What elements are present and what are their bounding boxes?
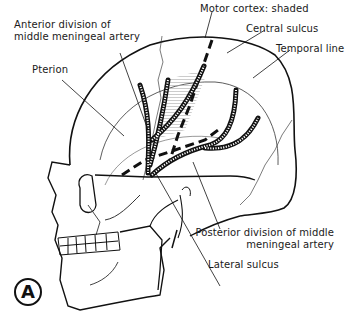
label-motor-cortex: Motor cortex: shaded bbox=[200, 3, 309, 15]
label-posterior-division-2: meningeal artery bbox=[246, 239, 334, 251]
face-outline bbox=[48, 162, 170, 310]
zygomatic-bone bbox=[105, 195, 140, 220]
label-anterior-division-1: Anterior division of bbox=[14, 19, 111, 31]
jaw-arrow bbox=[90, 262, 118, 285]
label-central-sulcus: Central sulcus bbox=[246, 23, 318, 35]
teeth bbox=[58, 232, 120, 255]
styloid bbox=[172, 230, 177, 248]
anatomy-figure: Motor cortex: shaded Anterior division o… bbox=[0, 0, 348, 318]
label-pterion: Pterion bbox=[32, 64, 68, 76]
lateral-sulcus-dashes bbox=[122, 130, 218, 175]
orbit bbox=[79, 175, 96, 213]
squamosal-suture bbox=[105, 136, 220, 185]
middle-meningeal-artery bbox=[140, 66, 258, 175]
label-temporal-line: Temporal line bbox=[276, 43, 344, 55]
label-lateral-sulcus: Lateral sulcus bbox=[208, 259, 279, 271]
panel-letter-badge: A bbox=[14, 278, 42, 306]
label-anterior-division-2: middle meningeal artery bbox=[14, 31, 140, 43]
label-posterior-division-1: Posterior division of middle bbox=[195, 227, 334, 239]
ear-canal bbox=[182, 187, 190, 196]
zygomatic-arch bbox=[95, 175, 255, 180]
ramus bbox=[150, 200, 178, 226]
mandible bbox=[120, 226, 162, 290]
